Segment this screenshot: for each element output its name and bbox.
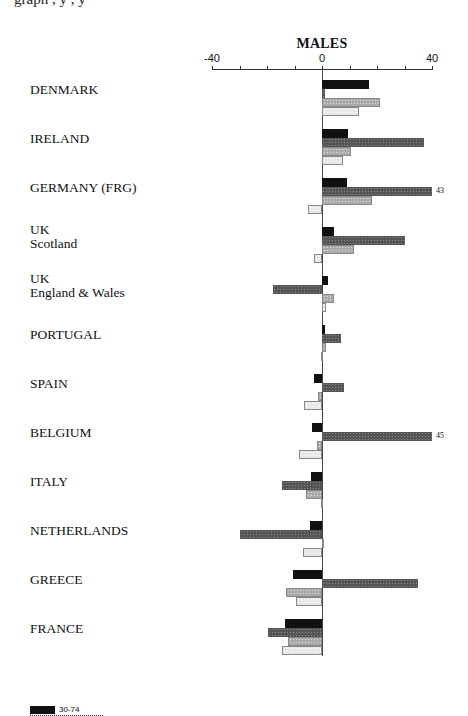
legend-label: 30-74 (59, 705, 79, 714)
x-tick-mark (240, 66, 241, 70)
bar (306, 490, 323, 499)
bar (322, 89, 325, 98)
category-label-line: UK (30, 272, 125, 286)
category-label: DENMARK (30, 83, 98, 97)
bar (314, 374, 322, 383)
x-tick-mark (377, 66, 378, 70)
x-tick-label: 40 (426, 52, 438, 64)
category-label: NETHERLANDS (30, 524, 128, 538)
bar (308, 205, 322, 214)
bar (322, 129, 348, 138)
bar (310, 521, 322, 530)
category-label-line: GREECE (30, 573, 83, 587)
category-label-line: ITALY (30, 475, 68, 489)
x-tick-mark (267, 66, 268, 70)
bar (322, 343, 326, 352)
x-tick-mark (212, 66, 213, 70)
category-label-line: BELGIUM (30, 426, 92, 440)
bar (322, 245, 354, 254)
x-tick-label: 0 (319, 52, 325, 64)
bar (322, 147, 351, 156)
category-label-line: SPAIN (30, 377, 68, 391)
x-tick-mark (432, 66, 433, 70)
category-label-line: PORTUGAL (30, 328, 101, 342)
bar (286, 588, 322, 597)
bar (322, 236, 405, 245)
bar (304, 401, 322, 410)
bar (322, 98, 380, 107)
bar (299, 450, 322, 459)
x-tick-mark (350, 66, 351, 70)
category-label-line: Scotland (30, 237, 77, 251)
cut-off-header-text: graph , y , y (14, 0, 86, 8)
x-tick-label: -40 (204, 52, 220, 64)
category-label: GERMANY (FRG) (30, 181, 136, 195)
legend-swatch-black (30, 706, 55, 714)
bar (322, 138, 424, 147)
bar (314, 254, 322, 263)
bar (322, 107, 359, 116)
bar (322, 227, 334, 236)
bar (321, 352, 323, 361)
chart-title: MALES (294, 36, 350, 52)
category-label: FRANCE (30, 622, 83, 636)
category-label: PORTUGAL (30, 328, 101, 342)
bar (322, 539, 324, 548)
bar (322, 303, 326, 312)
category-label-line: England & Wales (30, 286, 125, 300)
category-label: IRELAND (30, 132, 89, 146)
bar (321, 499, 323, 508)
bar (293, 570, 322, 579)
bar (311, 472, 322, 481)
bar (322, 294, 334, 303)
bar (318, 392, 322, 401)
bar (322, 156, 343, 165)
bar (268, 628, 322, 637)
category-label: SPAIN (30, 377, 68, 391)
x-tick-mark (405, 66, 406, 70)
bar (282, 646, 322, 655)
overflow-value-label: 45 (436, 431, 444, 440)
bar (322, 80, 369, 89)
bar (317, 441, 323, 450)
x-tick-mark (295, 66, 296, 70)
bar (240, 530, 323, 539)
bar (322, 187, 432, 196)
bar (312, 423, 322, 432)
category-label: ITALY (30, 475, 68, 489)
bar (322, 325, 325, 334)
category-label: UKEngland & Wales (30, 272, 125, 300)
bar (296, 597, 322, 606)
bar (282, 481, 322, 490)
bar (322, 579, 418, 588)
bar (273, 285, 323, 294)
bar (285, 619, 322, 628)
category-label-line: DENMARK (30, 83, 98, 97)
bar (322, 178, 347, 187)
category-label: BELGIUM (30, 426, 92, 440)
bar (322, 383, 344, 392)
bar (322, 432, 432, 441)
category-label-line: FRANCE (30, 622, 83, 636)
bar (303, 548, 322, 557)
category-label-line: IRELAND (30, 132, 89, 146)
bar (322, 196, 372, 205)
bar (288, 637, 322, 646)
overflow-value-label: 43 (436, 186, 444, 195)
category-label-line: UK (30, 223, 77, 237)
category-label-line: NETHERLANDS (30, 524, 128, 538)
category-label: GREECE (30, 573, 83, 587)
bar (322, 334, 341, 343)
category-label-line: GERMANY (FRG) (30, 181, 136, 195)
bar (322, 276, 328, 285)
category-label: UKScotland (30, 223, 77, 251)
